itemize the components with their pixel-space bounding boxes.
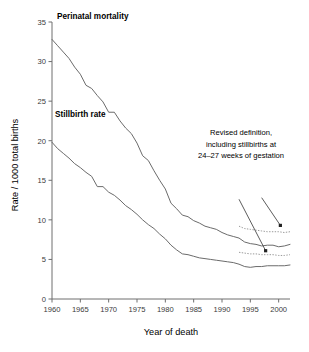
- annotation-arrows-group: [239, 198, 282, 253]
- x-tick-label: 1980: [157, 305, 174, 314]
- y-tick-label: 10: [38, 216, 46, 225]
- x-tick-label: 1965: [72, 305, 89, 314]
- y-tick-label: 25: [38, 97, 46, 106]
- x-axis-title: Year of death: [52, 327, 290, 337]
- x-tick-label: 1990: [214, 305, 231, 314]
- x-tick-label: 1960: [44, 305, 61, 314]
- y-axis-title: Rate / 1000 total births: [10, 100, 20, 230]
- x-tick-label: 1995: [242, 305, 259, 314]
- series-path-3: [239, 252, 290, 255]
- tick-labels-group: 0510152025303519601965197019751980198519…: [38, 18, 288, 314]
- annotation-arrow-0: [239, 199, 266, 250]
- x-tick-label: 1985: [185, 305, 202, 314]
- annotation-line-3: 24–27 weeks of gestation: [180, 150, 302, 162]
- y-axis-title-wrap: Rate / 1000 total births: [2, 0, 22, 352]
- y-tick-label: 0: [42, 295, 46, 304]
- x-tick-label: 2000: [270, 305, 287, 314]
- x-tick-label: 1975: [129, 305, 146, 314]
- annotation-arrow-1: [262, 198, 281, 226]
- annotation-line-2: including stillbirths at: [180, 139, 302, 151]
- chart-canvas: 0510152025303519601965197019751980198519…: [0, 0, 309, 352]
- chart-figure: 0510152025303519601965197019751980198519…: [0, 0, 309, 352]
- annotation-arrow-head-0: [264, 249, 267, 252]
- y-tick-label: 15: [38, 176, 46, 185]
- axes-group: [49, 22, 291, 303]
- y-tick-label: 20: [38, 137, 46, 146]
- series-label-stillbirth: Stillbirth rate: [55, 110, 106, 119]
- annotation-line-1: Revised definition,: [180, 127, 302, 139]
- series-path-2: [239, 226, 290, 232]
- x-tick-label: 1970: [100, 305, 117, 314]
- y-tick-label: 35: [38, 18, 46, 27]
- annotation-arrow-head-1: [279, 224, 282, 227]
- series-label-perinatal: Perinatal mortality: [57, 12, 128, 21]
- y-tick-label: 5: [42, 255, 46, 264]
- y-tick-label: 30: [38, 57, 46, 66]
- annotation-block: Revised definition, including stillbirth…: [180, 127, 302, 162]
